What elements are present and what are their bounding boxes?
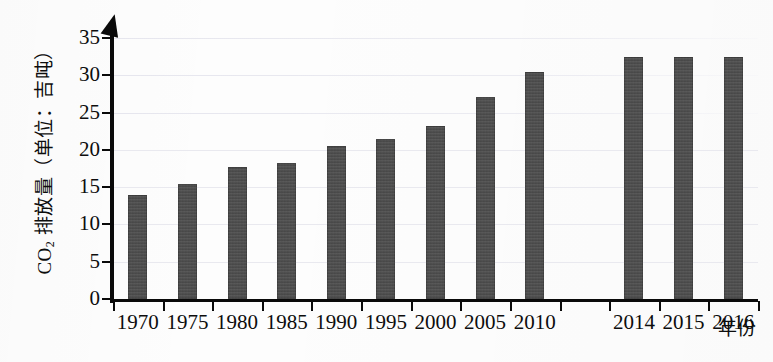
co2-emissions-bar-chart: CO2 排放量（单位：吉吨） 05101520253035 1970197519… [0, 0, 773, 362]
x-axis-line [110, 299, 758, 302]
bar [128, 195, 147, 299]
y-axis-tick [102, 298, 112, 300]
x-axis-tick [560, 301, 562, 311]
x-axis-tick-label: 2010 [505, 312, 565, 333]
x-axis-tick [361, 301, 363, 311]
x-axis-tick [708, 301, 710, 311]
bar [724, 57, 743, 299]
y-axis-tick-label: 10 [60, 213, 100, 234]
x-axis-tick [460, 301, 462, 311]
bar [476, 97, 495, 299]
y-axis-tick-labels: 05101520253035 [52, 0, 100, 320]
x-axis-tick [262, 301, 264, 311]
y-axis-tick-label: 5 [60, 251, 100, 272]
x-axis-tick [163, 301, 165, 311]
x-axis-title: 年份 [718, 313, 756, 340]
x-axis-tick [659, 301, 661, 311]
x-axis-tick [609, 301, 611, 311]
y-axis-tick [102, 223, 112, 225]
bar [327, 146, 346, 299]
bar [426, 126, 445, 299]
y-axis-tick-label: 35 [60, 27, 100, 48]
bar [376, 139, 395, 299]
x-axis-tick [758, 301, 760, 311]
bar [178, 184, 197, 299]
bar-series [113, 38, 758, 299]
x-axis-tick-labels: 1970197519801985199019952000200520102014… [0, 312, 773, 352]
y-axis-tick [102, 149, 112, 151]
bar [674, 57, 693, 299]
bar [525, 72, 544, 299]
y-axis-tick-label: 20 [60, 139, 100, 160]
y-axis-tick-label: 30 [60, 64, 100, 85]
bar [624, 57, 643, 299]
x-axis-tick [411, 301, 413, 311]
x-axis-tick [113, 301, 115, 311]
y-axis-arrow-icon [101, 12, 124, 38]
bar [277, 163, 296, 299]
y-axis-tick-label: 25 [60, 102, 100, 123]
x-axis-tick [212, 301, 214, 311]
y-axis-tick-label: 0 [60, 288, 100, 309]
y-axis-tick [102, 37, 112, 39]
y-axis-tick [102, 261, 112, 263]
x-axis-tick [311, 301, 313, 311]
y-axis-tick-label: 15 [60, 176, 100, 197]
bar [228, 167, 247, 299]
y-axis-tick [102, 112, 112, 114]
y-axis-tick [102, 186, 112, 188]
x-axis-tick [510, 301, 512, 311]
y-axis-tick [102, 74, 112, 76]
